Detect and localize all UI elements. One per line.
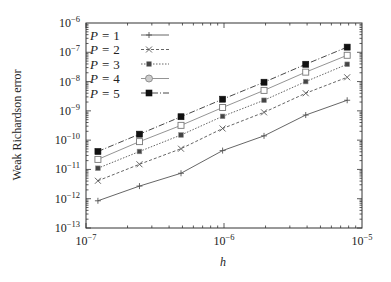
filled-square-icon	[220, 96, 226, 102]
legend-item-p1: P=1	[89, 28, 169, 43]
star-icon	[137, 149, 142, 154]
legend-label: P=5	[89, 86, 120, 101]
y-tick-label: 10−6	[59, 14, 80, 30]
cross-icon	[220, 125, 226, 131]
open-square-icon	[136, 139, 142, 145]
star-icon	[262, 98, 267, 103]
cross-icon	[178, 146, 184, 152]
open-square-icon	[261, 87, 267, 93]
x-tick-label: 10−5	[351, 232, 372, 248]
plot-frame	[86, 23, 362, 228]
cross-icon	[95, 178, 101, 184]
plus-icon	[303, 112, 309, 118]
star-icon	[303, 79, 308, 84]
filled-square-icon	[95, 148, 101, 154]
legend-label: P=3	[89, 57, 120, 72]
x-axis-label: h	[220, 255, 226, 269]
plus-icon	[220, 148, 226, 154]
legend-item-p3: P=3	[89, 57, 169, 72]
open-square-icon	[95, 156, 101, 162]
plus-icon	[344, 97, 350, 103]
legend-item-p2: P=2	[89, 42, 169, 57]
y-tick-label: 10−9	[59, 102, 80, 118]
x-axis-ticks: 10−710−610−5	[75, 23, 372, 248]
plus-icon	[261, 133, 267, 139]
x-tick-label: 10−6	[213, 232, 234, 248]
star-icon	[147, 62, 152, 67]
plus-icon	[178, 170, 184, 176]
series-layer	[95, 44, 350, 204]
open-square-icon	[303, 69, 309, 75]
legend-label: P=4	[89, 71, 120, 86]
plot-area-border	[86, 23, 362, 228]
filled-square-icon	[261, 79, 267, 85]
star-icon	[345, 62, 350, 67]
cross-icon	[261, 109, 267, 115]
chart-container: 10−710−610−5 10−610−710−810−910−1010−111…	[0, 0, 391, 282]
x-tick-label: 10−7	[75, 232, 96, 248]
filled-square-icon	[136, 131, 142, 137]
series-p3	[96, 62, 350, 171]
legend-label: P=1	[89, 28, 120, 43]
plus-icon	[136, 183, 142, 189]
y-tick-label: 10−11	[55, 160, 80, 176]
cross-icon	[303, 90, 309, 96]
legend-label: P=2	[89, 42, 120, 57]
cross-icon	[344, 74, 350, 80]
filled-square-icon	[146, 90, 152, 96]
star-icon	[96, 166, 101, 171]
y-tick-label: 10−10	[55, 131, 80, 147]
filled-square-icon	[178, 114, 184, 120]
filled-square-icon	[303, 61, 309, 67]
series-p2	[95, 74, 350, 183]
filled-square-icon	[344, 44, 350, 50]
series-p5	[95, 44, 350, 154]
open-square-icon	[220, 105, 226, 111]
plus-icon	[95, 198, 101, 204]
legend-item-p5: P=5	[89, 86, 169, 101]
star-icon	[220, 114, 225, 119]
log-log-line-chart: 10−710−610−5 10−610−710−810−910−1010−111…	[0, 0, 391, 282]
legend: P=1P=2P=3P=4P=5	[89, 28, 169, 101]
y-axis-ticks: 10−610−710−810−910−1010−1110−1210−13	[55, 14, 362, 235]
plus-icon	[146, 32, 152, 38]
open-square-icon	[178, 122, 184, 128]
y-tick-label: 10−7	[59, 43, 80, 59]
y-tick-label: 10−8	[59, 73, 80, 89]
cross-icon	[136, 161, 142, 167]
series-p1	[95, 97, 350, 204]
series-p4	[95, 52, 350, 162]
open-circle-icon	[146, 75, 153, 82]
legend-item-p4: P=4	[89, 71, 169, 86]
y-axis-label: Weak Richardson error	[10, 70, 24, 181]
y-tick-label: 10−12	[55, 190, 80, 206]
y-tick-label: 10−13	[55, 219, 80, 235]
open-square-icon	[344, 52, 350, 58]
star-icon	[179, 133, 184, 138]
